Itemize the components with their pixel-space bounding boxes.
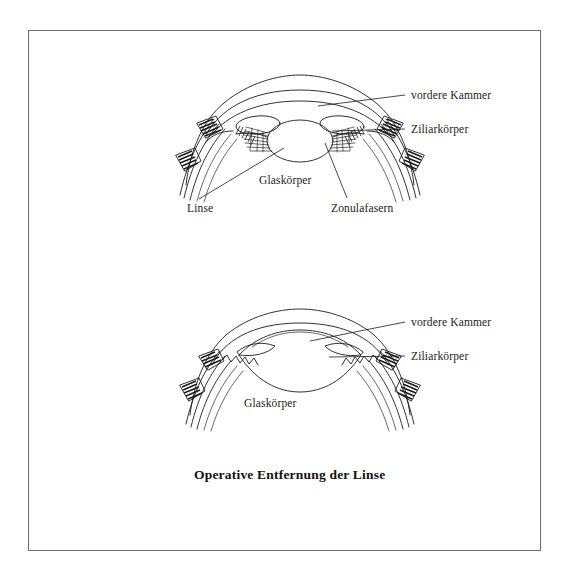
leader-lines [199,95,405,357]
label-ziliarkoerper-lower: Ziliarkörper [411,350,468,362]
label-glaskoerper-upper: Glaskörper [259,174,312,186]
label-linse-upper: Linse [187,202,213,214]
leader-vordere-kammer-upper [318,95,405,106]
leader-ziliarkoerper-lower [329,356,405,357]
label-glaskoerper-lower: Glaskörper [244,397,297,409]
figure-caption: Operative Entfernung der Linse [194,467,385,483]
lower-eye-drawing [180,309,420,431]
label-ziliarkoerper-upper: Ziliarkörper [411,123,468,135]
label-vordere-kammer-lower: vordere Kammer [411,316,491,328]
figure-page: .ln { fill:none; stroke:#1b1b1b; stroke-… [0,0,575,583]
label-vordere-kammer-upper: vordere Kammer [411,89,491,101]
label-zonulafasern-upper: Zonulafasern [331,202,393,214]
zonular-fibers-left [244,127,272,152]
eye-anatomy-illustration: .ln { fill:none; stroke:#1b1b1b; stroke-… [0,0,575,583]
